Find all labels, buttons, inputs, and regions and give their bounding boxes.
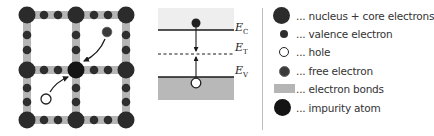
nucleus-icon: [273, 7, 290, 24]
impurity-atom-icon: [274, 99, 291, 116]
section-divider: [262, 8, 263, 130]
hole: [41, 94, 51, 104]
electron-bonds-icon: [274, 84, 295, 93]
legend-item-free-electron: ... free electron: [268, 62, 373, 80]
free-electron-icon: [279, 66, 290, 77]
et-label: ET: [235, 41, 248, 56]
legend-item-hole: ... hole: [268, 43, 330, 61]
hole-icon: [279, 47, 289, 57]
legend-item-valence-electron: ... valence electron: [268, 25, 393, 43]
band-electron: [192, 19, 201, 28]
hole-arrow: [50, 77, 68, 92]
crystal-lattice: [19, 7, 135, 129]
valence-electron-icon: [280, 30, 288, 38]
free-electron-arrow: [84, 39, 105, 61]
legend: ... nucleus + core electrons ... valence…: [268, 0, 434, 136]
band-diagram: [158, 8, 234, 100]
impurity-atom: [68, 62, 85, 79]
ev-label: EV: [235, 64, 248, 79]
legend-item-impurity-atom: ... impurity atom: [268, 99, 381, 117]
legend-item-electron-bonds: ... electron bonds: [268, 80, 384, 98]
legend-item-nucleus: ... nucleus + core electrons: [268, 7, 434, 25]
free-electron: [102, 27, 112, 37]
ec-label: EC: [235, 21, 248, 36]
band-hole: [191, 78, 201, 88]
